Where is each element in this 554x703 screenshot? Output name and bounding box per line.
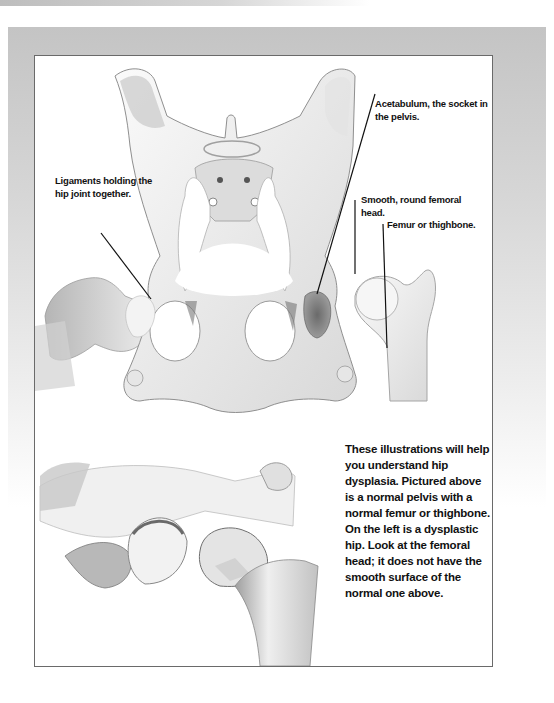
label-femur: Femur or thighbone. xyxy=(387,218,487,231)
label-ligaments: Ligaments holding the hip joint together… xyxy=(55,174,165,200)
label-acetabulum: Acetabulum, the socket in the pelvis. xyxy=(375,97,495,123)
label-femoral-head: Smooth, round femoral head. xyxy=(361,193,481,219)
dysplastic-hip-illustration xyxy=(35,416,335,666)
caption-text: These illustrations will help you unders… xyxy=(345,441,490,601)
illustration-panel: Ligaments holding the hip joint together… xyxy=(34,55,493,667)
top-gray-strip xyxy=(0,0,370,6)
